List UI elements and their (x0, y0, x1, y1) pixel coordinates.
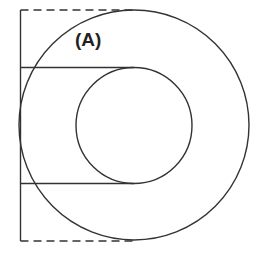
concentric-circles-diagram (0, 0, 268, 257)
inner-circle (76, 68, 192, 184)
outer-circle (19, 10, 249, 240)
figure-label: (A) (75, 30, 101, 49)
